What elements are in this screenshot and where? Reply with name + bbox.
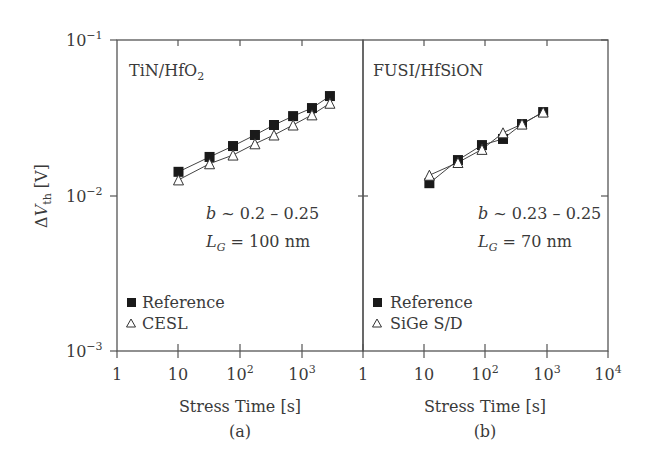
svg-text:10: 10 (168, 365, 188, 384)
open-triangle-icon (127, 319, 136, 327)
svg-text:103: 103 (533, 363, 560, 384)
svg-text:b ~ 0.23 – 0.25: b ~ 0.23 – 0.25 (478, 204, 601, 223)
x-tick-labels: 1 10 102 103 1 10 102 103 104 (112, 363, 622, 384)
svg-text:CESL: CESL (142, 314, 188, 333)
svg-text:1: 1 (358, 365, 368, 384)
svg-text:LG = 100 nm: LG = 100 nm (205, 232, 310, 254)
svg-text:10−2: 10−2 (66, 185, 103, 206)
x-axis-label-a: Stress Time [s] (179, 397, 301, 416)
svg-text:Reference: Reference (390, 293, 473, 312)
x-axis-label-b: Stress Time [s] (424, 397, 546, 416)
filled-square-icon (373, 298, 382, 307)
panel-a-legend: Reference CESL (127, 293, 225, 333)
open-triangle-marker (228, 150, 238, 160)
panel-b-legend: Reference SiGe S/D (373, 293, 473, 333)
panel-b-title: FUSI/HfSiON (373, 61, 483, 80)
open-triangle-marker (424, 170, 434, 180)
open-triangle-icon (373, 319, 382, 327)
filled-square-marker (269, 120, 279, 130)
panel-a-title: TiN/HfO2 (129, 61, 204, 83)
svg-text:SiGe S/D: SiGe S/D (390, 314, 463, 333)
open-triangle-marker (498, 128, 508, 138)
open-triangle-marker (250, 139, 260, 149)
svg-text:10−3: 10−3 (66, 340, 103, 361)
svg-text:b ~ 0.2 – 0.25: b ~ 0.2 – 0.25 (206, 204, 319, 223)
open-triangle-marker (288, 120, 298, 130)
svg-text:102: 102 (471, 363, 498, 384)
y-tick-labels: 10−1 10−2 10−3 (66, 29, 103, 361)
svg-text:103: 103 (288, 363, 315, 384)
panel-a-annotation: b ~ 0.2 – 0.25 LG = 100 nm (205, 204, 319, 254)
panel-b-annotation: b ~ 0.23 – 0.25 LG = 70 nm (477, 204, 601, 254)
caption-b: (b) (474, 422, 497, 441)
svg-text:Reference: Reference (142, 293, 225, 312)
data-series (174, 91, 549, 188)
svg-text:10−1: 10−1 (66, 29, 103, 50)
svg-text:ΔVth [V]: ΔVth [V] (32, 164, 54, 228)
y-axis-label: ΔVth [V] (32, 164, 54, 228)
svg-text:104: 104 (594, 363, 621, 384)
open-triangle-marker (269, 130, 279, 140)
filled-square-icon (127, 298, 136, 307)
caption-a: (a) (229, 422, 251, 441)
svg-text:LG = 70 nm: LG = 70 nm (477, 232, 572, 254)
svg-text:1: 1 (112, 365, 122, 384)
chart-figure: 10−1 10−2 10−3 ΔVth [V] 1 10 102 103 1 1… (0, 0, 649, 462)
svg-text:102: 102 (226, 363, 253, 384)
svg-text:10: 10 (414, 365, 434, 384)
